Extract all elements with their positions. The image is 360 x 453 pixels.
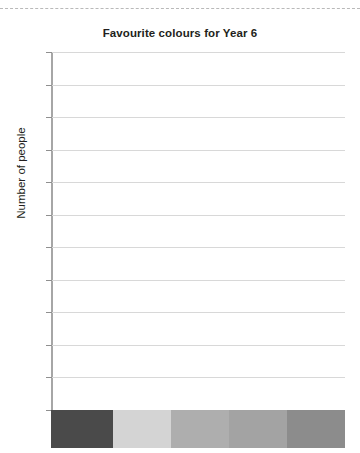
gridline [51,150,345,151]
gridline [51,85,345,86]
y-axis-tick [46,182,52,183]
gridline [51,312,345,313]
swatch-5 [287,410,345,448]
gridline [51,117,345,118]
swatch-1 [51,410,113,448]
swatch-3 [171,410,229,448]
swatch-4 [229,410,287,448]
swatch-2 [113,410,171,448]
gridline [51,182,345,183]
y-axis-tick [46,85,52,86]
y-axis-tick [46,377,52,378]
gridlines: 0 [51,52,345,410]
gridline [51,247,345,248]
gridline [51,377,345,378]
y-axis-tick [46,280,52,281]
gridline [51,215,345,216]
plot-area: 0 [51,52,345,410]
y-axis-tick [46,52,52,53]
gridline [51,280,345,281]
gridline [51,52,345,53]
y-axis-tick [46,345,52,346]
colour-swatch-strip [51,410,345,448]
y-axis-tick [46,117,52,118]
y-axis-tick [46,312,52,313]
y-axis-tick [46,150,52,151]
gridline [51,345,345,346]
y-axis-tick [46,247,52,248]
chart-title: Favourite colours for Year 6 [0,27,360,39]
y-axis-title: Number of people [15,108,27,238]
y-axis-tick [46,215,52,216]
dashed-cut-line [0,8,360,9]
